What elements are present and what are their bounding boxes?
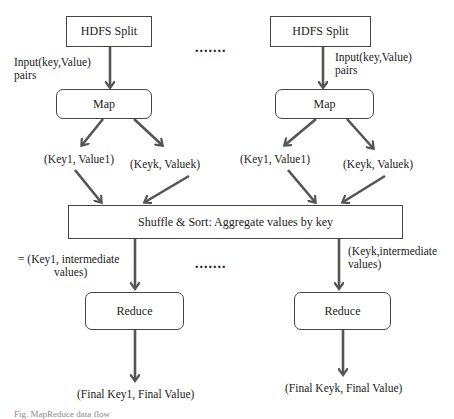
reduce-right: Reduce: [294, 292, 391, 330]
pair1-label-left: (Key1, Value1): [44, 153, 114, 166]
figure-caption: Fig. MapReduce data flow: [14, 409, 110, 419]
map-left-label: Map: [93, 97, 115, 112]
ellipsis-top: .......: [195, 40, 227, 56]
hdfs-split-right: HDFS Split: [270, 16, 371, 47]
input-pairs-label-left: Input(key,Value) pairs: [14, 56, 91, 82]
reduce-left-label: Reduce: [117, 304, 153, 319]
hdfs-split-left: HDFS Split: [66, 16, 152, 47]
pairk-label-right: (Keyk, Valuek): [343, 158, 413, 171]
map-right-label: Map: [314, 97, 336, 112]
shuffle-sort-box: Shuffle & Sort: Aggregate values by key: [68, 205, 403, 239]
map-right: Map: [275, 89, 374, 119]
output-label-right: (Final Keyk, Final Value): [285, 382, 402, 395]
intermediate-label-right: (Keyk,intermediate values): [348, 245, 437, 271]
intermediate-label-left: = (Key1, intermediate values): [18, 253, 119, 279]
output-label-left: (Final Key1, Final Value): [77, 388, 194, 401]
ellipsis-bottom: .......: [195, 256, 227, 272]
pairk-label-left: (Keyk, Valuek): [130, 158, 200, 171]
hdfs-split-left-label: HDFS Split: [81, 24, 137, 39]
pair1-label-right: (Key1, Value1): [240, 153, 310, 166]
input-pairs-label-right: Input(key,Value) pairs: [335, 51, 412, 77]
map-left: Map: [56, 89, 152, 119]
shuffle-sort-label: Shuffle & Sort: Aggregate values by key: [138, 215, 333, 230]
reduce-left: Reduce: [85, 292, 184, 330]
hdfs-split-right-label: HDFS Split: [292, 24, 348, 39]
reduce-right-label: Reduce: [325, 304, 361, 319]
